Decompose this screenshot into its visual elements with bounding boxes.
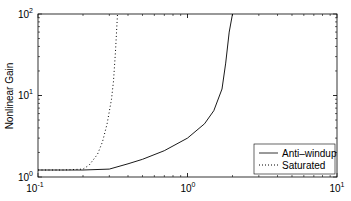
x-tick-label: 101: [329, 181, 344, 194]
y-tick-label: 102: [18, 7, 33, 20]
y-tick-label: 101: [18, 88, 33, 101]
x-tick-labels: 10-1 100 101: [26, 181, 344, 194]
x-tick-label: 10-1: [26, 181, 43, 194]
y-axis-label: Nonlinear Gain: [4, 63, 15, 130]
legend: Anti–windup Saturated: [254, 144, 337, 174]
x-tick-label: 100: [180, 181, 195, 194]
y-tick-label: 100: [18, 170, 33, 183]
nonlinear-gain-chart: 100 101 102 10-1 100 101 Nonlinear Gain …: [0, 0, 351, 201]
legend-label-saturated: Saturated: [282, 160, 325, 171]
y-tick-labels: 100 101 102: [18, 7, 33, 183]
legend-label-anti-windup: Anti–windup: [282, 148, 337, 159]
